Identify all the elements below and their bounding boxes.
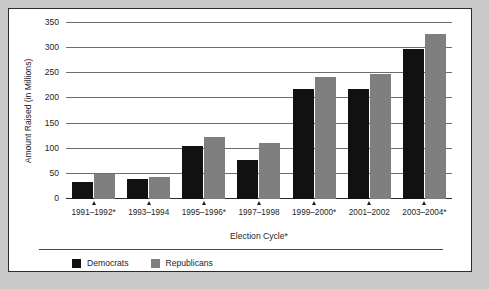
legend-label-republicans: Republicans [166, 258, 213, 268]
y-axis-tick-label: 100 [45, 143, 59, 153]
bar-group [342, 23, 397, 199]
y-axis-title: Amount Raised (in Millions) [21, 23, 35, 199]
y-axis-tick-label: 250 [45, 67, 59, 77]
x-axis-title: Election Cycle* [66, 231, 452, 241]
bar-democrats-5 [348, 89, 369, 199]
y-axis-tick-label: 300 [45, 42, 59, 52]
legend-swatch-democrats [72, 259, 81, 268]
bar-republicans-0 [94, 174, 115, 199]
y-axis-tick-label: 0 [54, 193, 59, 203]
y-axis-title-label: Amount Raised (in Millions) [23, 59, 33, 164]
bar-democrats-0 [72, 182, 93, 199]
x-axis-tick-label: 1997–1998 [239, 208, 280, 217]
bar-group [231, 23, 286, 199]
bar-democrats-3 [237, 160, 258, 199]
bar-republicans-4 [315, 77, 336, 199]
legend-divider [39, 249, 443, 250]
x-axis-tick-label: 1993–1994 [128, 208, 169, 217]
x-axis-tick-mark [202, 201, 206, 205]
x-axis-tick-label: 2003–2004* [402, 208, 446, 217]
y-axis-tick-label: 150 [45, 118, 59, 128]
x-axis-tick-label: 2001–2002 [349, 208, 390, 217]
legend-item-democrats: Democrats [72, 258, 129, 268]
bar-republicans-1 [149, 177, 170, 199]
x-axis-tick-label: 1999–2000* [292, 208, 336, 217]
x-axis-tick-mark [312, 201, 316, 205]
bar-group [287, 23, 342, 199]
x-axis-tick-mark [367, 201, 371, 205]
x-axis-tick-label: 1991–1992* [71, 208, 115, 217]
bar-republicans-6 [425, 34, 446, 199]
x-axis-tick-mark [92, 201, 96, 205]
bar-democrats-4 [293, 89, 314, 199]
chart-legend: Democrats Republicans [72, 258, 213, 268]
legend-label-democrats: Democrats [87, 258, 129, 268]
bar-democrats-6 [403, 49, 424, 199]
x-axis-tick-mark [422, 201, 426, 205]
y-axis-tick-label: 350 [45, 17, 59, 27]
legend-item-republicans: Republicans [151, 258, 213, 268]
y-axis-tick-label: 50 [50, 168, 59, 178]
bar-republicans-2 [204, 137, 225, 199]
bar-group [66, 23, 121, 199]
bar-group [176, 23, 231, 199]
x-axis-tick-label: 1995–1996* [182, 208, 226, 217]
x-axis-tick-mark [147, 201, 151, 205]
bar-group [121, 23, 176, 199]
bar-group [397, 23, 452, 199]
plot-area: 050100150200250300350 1991–1992*1993–199… [66, 23, 452, 199]
y-axis-tick-label: 200 [45, 92, 59, 102]
bar-republicans-3 [259, 143, 280, 199]
bar-republicans-5 [370, 74, 391, 199]
bar-democrats-1 [127, 179, 148, 199]
bars-layer [66, 23, 452, 199]
x-axis-tick-mark [257, 201, 261, 205]
chart-panel: Amount Raised (in Millions) 050100150200… [8, 8, 472, 272]
bar-democrats-2 [182, 146, 203, 199]
legend-swatch-republicans [151, 259, 160, 268]
